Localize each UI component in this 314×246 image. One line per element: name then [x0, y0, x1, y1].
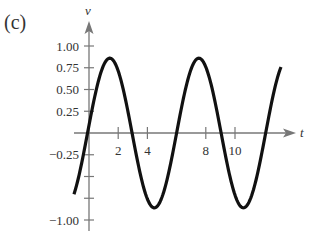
x-axis: t 24810: [74, 125, 304, 158]
y-axis: v 1.000.750.500.25−0.25−1.00: [49, 3, 94, 231]
y-tick-label: 0.75: [56, 60, 79, 75]
sine-chart: (c) t 24810 v 1.000.750.500.25−0.25−1.00: [0, 0, 314, 246]
x-axis-label: t: [300, 125, 304, 140]
y-axis-label: v: [85, 3, 91, 18]
x-tick-label: 10: [229, 143, 242, 158]
panel-label: (c): [4, 11, 26, 34]
y-tick-label: −1.00: [49, 213, 79, 228]
y-tick-label: 1.00: [56, 39, 79, 54]
y-tick-label: −0.25: [49, 147, 79, 162]
x-tick-label: 4: [144, 143, 151, 158]
x-tick-label: 8: [203, 143, 210, 158]
x-tick-label: 2: [115, 143, 122, 158]
y-tick-label: 0.25: [56, 104, 79, 119]
y-tick-label: 0.50: [56, 82, 79, 97]
